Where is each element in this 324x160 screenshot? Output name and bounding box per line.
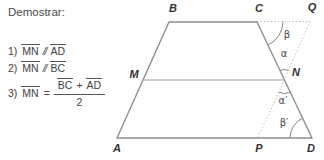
vertex-label-c: C <box>255 2 264 14</box>
angle-label-alpha-prime: α′ <box>279 95 289 106</box>
vertex-label-a: A <box>112 142 121 154</box>
trapezoid-diagram: B C Q M N A P D β α α′ β′ <box>0 0 324 160</box>
angle-label-beta-prime: β′ <box>280 117 289 128</box>
vertex-label-b: B <box>169 2 177 14</box>
angle-arc-beta-prime <box>290 118 303 138</box>
vertex-label-m: M <box>129 68 139 80</box>
angle-arc-alpha <box>280 70 288 71</box>
angle-arc-beta <box>268 22 283 46</box>
angle-label-alpha: α <box>281 48 288 59</box>
vertex-label-d: D <box>307 142 315 154</box>
vertex-label-q: Q <box>308 1 317 13</box>
vertex-label-n: N <box>292 66 301 78</box>
angle-label-beta: β <box>284 29 290 40</box>
geometry-exercise-panel: Demostrar: 1) MN // AD 2) MN // BC 3) MN… <box>0 0 324 160</box>
vertex-label-p: P <box>255 142 263 154</box>
angle-arc-alpha-prime <box>279 92 291 93</box>
